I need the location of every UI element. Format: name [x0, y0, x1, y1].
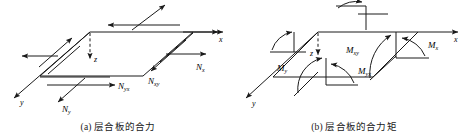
force-label-Ny: Ny — [61, 104, 71, 115]
y-axis-a — [14, 32, 90, 98]
y-axis-label-a: y — [19, 98, 24, 107]
diagram-resultant-forces: x y z Nx Nxy — [0, 0, 236, 118]
figure-root: x y z Nx Nxy — [0, 0, 472, 139]
force-label-Nx: Nx — [195, 62, 205, 73]
panel-resultant-moments: x y z Mx Mxy — [236, 0, 472, 139]
moment-arc-Myx — [326, 58, 358, 85]
caption-panel-b: (b) 层合板的合力矩 — [236, 119, 472, 133]
moment-label-Myx: Myx — [357, 66, 371, 77]
force-arrow-Ny-far — [132, 5, 165, 30]
x-axis-label-b: x — [453, 35, 458, 44]
z-axis-label-b: z — [309, 49, 314, 58]
z-axis-label-a: z — [93, 55, 98, 64]
moment-label-Mxy: Mxy — [345, 45, 359, 56]
panel-resultant-forces: x y z Nx Nxy — [0, 0, 236, 139]
force-arrow-Nxy — [151, 33, 193, 71]
diagram-resultant-moments: x y z Mx Mxy — [236, 0, 472, 118]
force-label-Nyx: Nyx — [117, 81, 130, 92]
caption-panel-a: (a) 层合板的合力 — [0, 119, 236, 133]
force-arrow-Nyx — [40, 77, 115, 85]
moment-arc-Myx-far — [336, 2, 388, 30]
force-arrow-Ny — [58, 78, 85, 102]
x-axis-label-a: x — [218, 35, 223, 44]
force-label-Nxy: Nxy — [147, 76, 160, 87]
y-axis-label-b: y — [251, 99, 256, 108]
moment-arc-Mx — [396, 32, 429, 58]
moment-label-Mx: Mx — [427, 40, 439, 51]
